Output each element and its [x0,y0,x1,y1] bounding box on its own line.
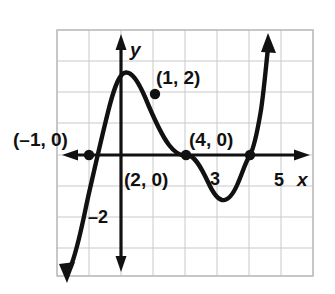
graph-figure: (–1, 0) (1, 2) (2, 0) (4, 0) 3 5 –2 x y [0,0,335,294]
point-marker-neg1-0 [84,150,94,160]
point-label-neg1-0: (–1, 0) [13,129,68,150]
x-tick-label-3: 3 [210,169,220,189]
x-axis-label: x [296,169,309,190]
point-marker-1-2 [150,89,160,99]
y-tick-label-neg2: –2 [88,207,108,227]
point-label-4-0: (4, 0) [189,129,233,150]
point-label-1-2: (1, 2) [156,67,200,88]
y-axis-label: y [129,39,142,60]
point-label-2-0: (2, 0) [124,169,168,190]
point-marker-4-0 [245,150,255,160]
x-tick-label-5: 5 [274,170,284,190]
point-marker-2-0 [181,150,191,160]
coordinate-plane-svg: (–1, 0) (1, 2) (2, 0) (4, 0) 3 5 –2 x y [0,0,335,294]
